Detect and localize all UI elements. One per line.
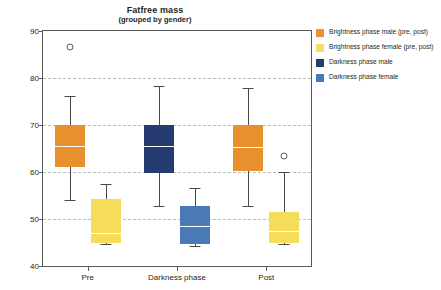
legend-item[interactable]: Brightness phase male (pre, post) bbox=[316, 28, 441, 37]
legend-item[interactable]: Darkness phase female bbox=[316, 73, 441, 82]
y-tick-label: 60 bbox=[30, 168, 39, 177]
box-plot-box bbox=[91, 199, 121, 243]
x-tick-mark bbox=[177, 266, 178, 271]
y-tick-mark bbox=[39, 219, 43, 220]
legend-label: Brightness phase female (pre, post) bbox=[329, 43, 433, 52]
whisker-cap bbox=[64, 96, 75, 97]
y-tick-mark bbox=[39, 78, 43, 79]
gridline bbox=[43, 78, 311, 79]
plot-area: 908070605040PreDarkness phasePost bbox=[42, 30, 312, 267]
y-tick-label: 50 bbox=[30, 215, 39, 224]
y-tick-label: 70 bbox=[30, 121, 39, 130]
outlier-point bbox=[66, 43, 73, 50]
x-tick-mark bbox=[88, 266, 89, 271]
y-tick-mark bbox=[39, 31, 43, 32]
median-line bbox=[269, 231, 299, 232]
x-tick-label: Post bbox=[258, 273, 274, 282]
chart-root: Fatfree mass (grouped by gender) Fatfree… bbox=[0, 0, 441, 290]
legend-swatch-icon bbox=[316, 74, 324, 82]
whisker-cap bbox=[279, 244, 290, 245]
legend-swatch-icon bbox=[316, 59, 324, 67]
median-line bbox=[91, 233, 121, 234]
whisker-cap bbox=[279, 172, 290, 173]
whisker-cap bbox=[100, 184, 111, 185]
y-tick-label: 90 bbox=[30, 27, 39, 36]
median-line bbox=[55, 146, 85, 147]
y-tick-mark bbox=[39, 172, 43, 173]
y-tick-mark bbox=[39, 266, 43, 267]
median-line bbox=[144, 146, 174, 147]
whisker-cap bbox=[100, 244, 111, 245]
legend-swatch-icon bbox=[316, 44, 324, 52]
whisker-cap bbox=[190, 246, 201, 247]
median-line bbox=[233, 147, 263, 148]
box-plot-box bbox=[269, 212, 299, 243]
legend-item[interactable]: Darkness phase male bbox=[316, 58, 441, 67]
legend-swatch-icon bbox=[316, 29, 324, 37]
whisker-cap bbox=[154, 206, 165, 207]
whisker-cap bbox=[243, 88, 254, 89]
y-tick-label: 40 bbox=[30, 262, 39, 271]
whisker-cap bbox=[64, 200, 75, 201]
y-tick-mark bbox=[39, 125, 43, 126]
x-tick-label: Darkness phase bbox=[148, 273, 206, 282]
chart-title: Fatfree mass bbox=[0, 5, 310, 15]
legend-label: Brightness phase male (pre, post) bbox=[329, 28, 428, 37]
whisker-cap bbox=[243, 206, 254, 207]
x-tick-label: Pre bbox=[81, 273, 93, 282]
legend-label: Darkness phase male bbox=[329, 58, 393, 67]
chart-legend: Brightness phase male (pre, post)Brightn… bbox=[316, 28, 441, 88]
median-line bbox=[180, 226, 210, 227]
y-tick-label: 80 bbox=[30, 74, 39, 83]
whisker-cap bbox=[190, 188, 201, 189]
outlier-point bbox=[281, 153, 288, 160]
x-tick-mark bbox=[266, 266, 267, 271]
gridline bbox=[43, 172, 311, 173]
chart-subtitle: (grouped by gender) bbox=[0, 15, 310, 24]
legend-label: Darkness phase female bbox=[329, 73, 398, 82]
whisker-cap bbox=[154, 86, 165, 87]
legend-item[interactable]: Brightness phase female (pre, post) bbox=[316, 43, 441, 52]
box-plot-box bbox=[144, 125, 174, 173]
